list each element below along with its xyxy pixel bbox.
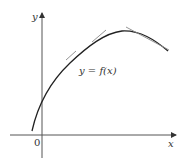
y-axis-label: y	[31, 11, 38, 22]
graph: y x 0 y = f(x)	[0, 0, 183, 167]
origin-label: 0	[34, 137, 40, 148]
x-axis-label: x	[168, 138, 174, 149]
function-curve	[32, 31, 168, 131]
tangent-line-3	[126, 27, 169, 50]
curve-label: y = f(x)	[78, 65, 117, 76]
